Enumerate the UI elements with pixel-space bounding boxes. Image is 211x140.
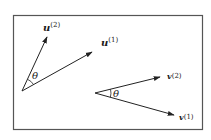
vector-v2-arrow [95, 77, 160, 93]
vector-u2-arrow [22, 37, 47, 91]
vector-label-v1: v(1) [179, 112, 194, 122]
vector-label-u1: u(1) [101, 36, 118, 48]
vector-v1-arrow [95, 93, 174, 115]
v-vector-group: θ v(2) v(1) [95, 71, 194, 122]
vector-label-u2: u(2) [43, 21, 60, 33]
angle-arc-v [110, 89, 111, 97]
u-vector-group: θ u(2) u(1) [22, 21, 118, 91]
angle-label-theta-u: θ [32, 70, 38, 81]
vector-angle-diagram: θ u(2) u(1) θ v(2) v(1) [0, 0, 211, 140]
angle-label-theta-v: θ [113, 88, 119, 99]
vector-label-v2: v(2) [167, 71, 182, 81]
